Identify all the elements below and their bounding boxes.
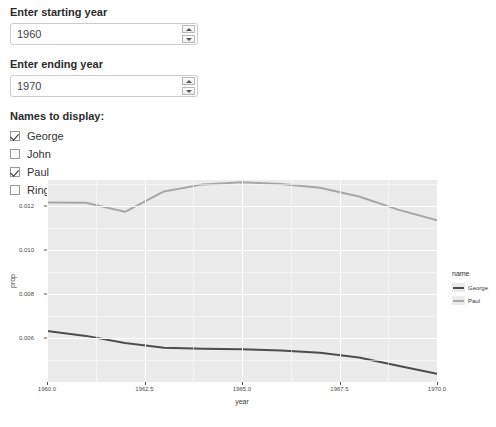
checkbox-row-john[interactable]: John	[10, 146, 210, 161]
legend-label-paul: Paul	[468, 298, 480, 304]
y-axis-tick-label: 0.010	[19, 247, 34, 253]
end-year-spinner[interactable]	[182, 77, 195, 95]
gridline-vertical	[388, 180, 389, 382]
legend-title: name	[452, 270, 496, 277]
legend-item-george[interactable]: George	[452, 282, 496, 293]
gridline-vertical	[145, 180, 146, 382]
x-axis-tick-label: 1967.5	[330, 386, 348, 392]
x-axis-title: year	[235, 398, 249, 405]
y-axis-tick-mark	[44, 294, 47, 295]
x-axis-tick-mark	[242, 382, 243, 385]
gridline-vertical	[193, 180, 194, 382]
legend-swatch-george	[452, 283, 465, 292]
x-axis-tick-label: 1970.0	[428, 386, 446, 392]
start-year-label: Enter starting year	[10, 6, 210, 19]
x-axis-tick-mark	[437, 382, 438, 385]
legend-swatch-paul	[452, 296, 465, 305]
gridline-vertical	[437, 180, 438, 382]
x-axis-tick-label: 1962.5	[135, 386, 153, 392]
name-proportion-line-chart: 0.0120.0100.0080.006 1960.01962.51965.01…	[0, 172, 496, 427]
end-year-field[interactable]	[10, 75, 198, 97]
start-year-field[interactable]	[10, 23, 198, 45]
gridline-vertical	[340, 180, 341, 382]
start-year-decrement-button[interactable]	[182, 35, 195, 43]
x-axis-tick-label: 1960.0	[38, 386, 56, 392]
x-axis-tick-label: 1965.0	[233, 386, 251, 392]
chart-legend: name George Paul	[452, 270, 496, 308]
end-year-input[interactable]	[11, 76, 179, 96]
names-group-label: Names to display:	[10, 110, 210, 122]
controls-panel: Enter starting year Enter ending year Na…	[10, 6, 210, 200]
gridline-vertical	[47, 180, 48, 382]
y-axis-tick-label: 0.008	[19, 291, 34, 297]
gridline-vertical	[96, 180, 97, 382]
legend-item-paul[interactable]: Paul	[452, 295, 496, 306]
checkbox-row-george[interactable]: George	[10, 128, 210, 143]
checkbox-label-john: John	[27, 148, 51, 160]
checkbox-john[interactable]	[10, 149, 20, 159]
y-axis-title: prop	[9, 274, 16, 288]
legend-label-george: George	[468, 285, 488, 291]
x-axis-tick-mark	[340, 382, 341, 385]
y-axis-tick-mark	[44, 206, 47, 207]
y-axis-tick-label: 0.006	[19, 335, 34, 341]
checkbox-label-george: George	[27, 130, 64, 142]
gridline-vertical	[242, 180, 243, 382]
y-axis-tick-label: 0.012	[19, 203, 34, 209]
end-year-increment-button[interactable]	[182, 77, 195, 85]
y-axis-tick-mark	[44, 338, 47, 339]
x-axis-tick-mark	[145, 382, 146, 385]
plot-panel	[47, 180, 437, 382]
x-axis-tick-mark	[47, 382, 48, 385]
gridline-vertical	[291, 180, 292, 382]
start-year-spinner[interactable]	[182, 25, 195, 43]
start-year-input[interactable]	[11, 24, 179, 44]
y-axis-tick-mark	[44, 250, 47, 251]
checkbox-george[interactable]	[10, 131, 20, 141]
start-year-increment-button[interactable]	[182, 25, 195, 33]
end-year-label: Enter ending year	[10, 58, 210, 71]
end-year-decrement-button[interactable]	[182, 87, 195, 95]
